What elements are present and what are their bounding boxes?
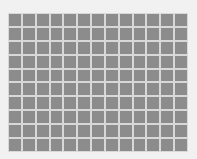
grid-cell [51,14,63,26]
grid-cell [92,125,104,137]
grid-cell [161,42,173,54]
grid-cell [64,139,76,151]
grid-cell [64,125,76,137]
grid-cell [9,14,21,26]
grid-cell [134,139,146,151]
grid-cell [51,97,63,109]
grid-cell [106,125,118,137]
grid-cell [120,111,132,123]
grid-cell [37,125,49,137]
grid-cell [37,139,49,151]
grid-cell [78,56,90,68]
grid-cell [134,83,146,95]
grid-cell [51,42,63,54]
grid-cell [134,28,146,40]
grid-cell [37,70,49,82]
grid-cell [78,125,90,137]
grid-cell [37,97,49,109]
grid-cell [92,42,104,54]
grid-cell [175,111,187,123]
grid-cell [106,70,118,82]
grid-cell [51,111,63,123]
grid-cell [23,14,35,26]
grid-cell [134,14,146,26]
grid-cell [92,56,104,68]
grid-cell [9,83,21,95]
grid-cell [51,139,63,151]
grid-cell [64,97,76,109]
grid-cell [78,14,90,26]
grid-cell [120,83,132,95]
grid-cell [9,70,21,82]
grid-cell [175,97,187,109]
grid-cell [37,111,49,123]
grid-cell [64,70,76,82]
grid-cell [9,56,21,68]
grid-cell [147,111,159,123]
grid-cell [9,28,21,40]
grid-cell [51,125,63,137]
grid-cell [147,125,159,137]
grid-cell [106,139,118,151]
grid-cell [23,97,35,109]
grid-cell [9,111,21,123]
grid-cell [161,97,173,109]
grid-cell [120,14,132,26]
grid-cell [147,97,159,109]
grid-cell [51,56,63,68]
grid-cell [51,28,63,40]
grid-cell [106,42,118,54]
grid-cell [78,139,90,151]
grid-cell [78,97,90,109]
grid-cell [147,139,159,151]
grid-cell [175,28,187,40]
grid-cell [161,28,173,40]
grid-cell [64,14,76,26]
grid-cell [147,83,159,95]
grid-cell [78,83,90,95]
grid-cell [23,125,35,137]
grid-cell [175,70,187,82]
grid-cell [92,14,104,26]
grid-cell [134,125,146,137]
grid-cell [37,14,49,26]
grid-cell [92,70,104,82]
grid-cell [23,56,35,68]
gray-grid-pattern [8,13,188,152]
grid-cell [161,139,173,151]
grid-cell [23,70,35,82]
grid-cell [92,28,104,40]
grid-cell [106,14,118,26]
grid-cell [23,139,35,151]
grid-cell [134,111,146,123]
grid-cell [120,125,132,137]
grid-cell [9,139,21,151]
grid-cell [37,83,49,95]
grid-cell [106,28,118,40]
grid-cell [134,70,146,82]
grid-cell [147,70,159,82]
grid-cell [92,97,104,109]
grid-cell [175,139,187,151]
grid-cell [23,42,35,54]
grid-cell [120,97,132,109]
grid-cell [161,111,173,123]
grid-cell [175,125,187,137]
grid-cell [175,83,187,95]
grid-cell [106,83,118,95]
grid-cell [64,83,76,95]
grid-cell [161,125,173,137]
grid-cell [92,139,104,151]
grid-cell [23,83,35,95]
grid-cell [161,70,173,82]
grid-cell [51,70,63,82]
grid-cell [78,111,90,123]
grid-cell [161,56,173,68]
grid-cell [37,42,49,54]
grid-cell [106,97,118,109]
grid-cell [78,70,90,82]
grid-cell [64,42,76,54]
grid-cell [92,111,104,123]
grid-cell [134,56,146,68]
grid-cell [23,28,35,40]
